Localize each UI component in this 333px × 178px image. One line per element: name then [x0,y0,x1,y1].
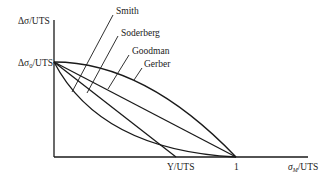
smith-leader [72,15,113,92]
tick-label-yield: Y/UTS [167,162,194,172]
y-axis-label: Δσ/UTS [18,16,50,26]
soderberg-line [54,62,176,157]
gerber-leader [134,68,142,80]
goodman-label: Goodman [132,46,170,56]
gerber-label: Gerber [144,59,171,69]
y-intercept-label: Δσ0/UTS [18,58,53,69]
smith-label: Smith [116,6,139,16]
fatigue-criteria-chart: Δσ/UTS Δσ0/UTS Smith Soderberg Goodman G… [0,0,333,178]
goodman-line [54,62,236,157]
soderberg-leader [87,36,118,93]
tick-label-one: 1 [234,162,239,172]
soderberg-label: Soderberg [121,28,160,38]
x-axis-label: σM/UTS [288,162,318,173]
